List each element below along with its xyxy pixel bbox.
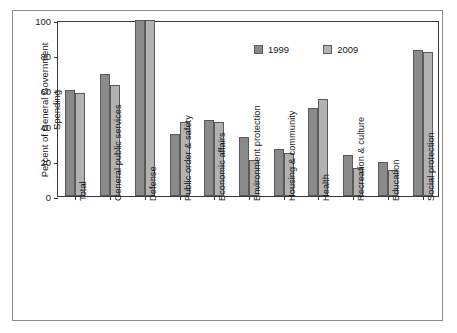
- y-axis-tick-label: 0: [46, 192, 51, 203]
- bar-1999[interactable]: [378, 162, 388, 196]
- y-axis-tick-mark: [54, 198, 58, 199]
- x-axis-category-label: Public order & safety: [183, 115, 193, 201]
- bar-1999[interactable]: [170, 134, 180, 196]
- x-axis-category-label: Defense: [148, 166, 158, 201]
- x-axis-tick-mark: [75, 196, 76, 200]
- bar-1999[interactable]: [308, 108, 318, 196]
- y-axis-tick-label: 20: [40, 157, 51, 168]
- x-axis-tick-mark: [353, 196, 354, 200]
- legend-label-1999: 1999: [268, 44, 289, 55]
- bar-1999[interactable]: [204, 120, 214, 196]
- bar-1999[interactable]: [343, 155, 353, 196]
- x-axis-tick-mark: [318, 196, 319, 200]
- y-axis-tick-label: 80: [40, 51, 51, 62]
- bar-1999[interactable]: [135, 20, 145, 196]
- x-axis-tick-mark: [145, 196, 146, 200]
- bar-1999[interactable]: [413, 50, 423, 196]
- chart-figure: Percent of General Government Spending 0…: [12, 10, 443, 321]
- legend-swatch-icon-1999: [254, 45, 263, 54]
- bar-group: [65, 22, 85, 196]
- y-axis-tick-label: 100: [35, 16, 51, 27]
- legend-label-2009: 2009: [337, 44, 358, 55]
- y-axis-tick-label: 60: [40, 86, 51, 97]
- x-axis-tick-mark: [110, 196, 111, 200]
- x-axis-tick-mark: [284, 196, 285, 200]
- chart-legend: 1999 2009: [254, 44, 358, 55]
- x-axis-category-label: Education: [391, 160, 401, 201]
- legend-item-1999[interactable]: 1999: [254, 44, 289, 55]
- x-axis-category-label: Total: [78, 181, 88, 201]
- x-axis-category-label: Housing & community: [287, 111, 297, 201]
- legend-swatch-icon-2009: [323, 45, 332, 54]
- legend-item-2009[interactable]: 2009: [323, 44, 358, 55]
- x-axis-category-label: Environment protection: [252, 105, 262, 201]
- bar-1999[interactable]: [65, 90, 75, 196]
- x-axis-category-label: Recreation & culture: [356, 117, 366, 201]
- x-axis-category-label: Economic affairs: [217, 132, 227, 201]
- x-axis-category-label: Social protection: [426, 132, 436, 201]
- bar-1999[interactable]: [239, 137, 249, 196]
- x-axis-tick-mark: [388, 196, 389, 200]
- x-axis-tick-mark: [423, 196, 424, 200]
- x-axis-tick-mark: [249, 196, 250, 200]
- bar-1999[interactable]: [100, 74, 110, 196]
- x-axis-tick-mark: [180, 196, 181, 200]
- y-axis-tick-label: 40: [40, 122, 51, 133]
- x-axis-category-label: Health: [321, 174, 331, 201]
- x-axis-tick-mark: [214, 196, 215, 200]
- x-axis-category-label: General public services: [113, 104, 123, 201]
- bar-1999[interactable]: [274, 149, 284, 196]
